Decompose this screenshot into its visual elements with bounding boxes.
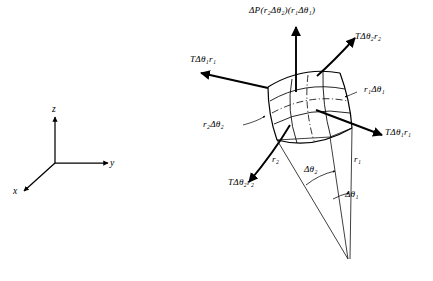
- label-radius-2: r₂: [272, 155, 279, 164]
- x-axis-line: [24, 163, 55, 191]
- label-pressure-force: ΔP(r₂Δθ₂)(r₁Δθ₁): [249, 6, 315, 15]
- radial-line-r2-outer: [277, 140, 348, 259]
- radial-lines-group: [277, 128, 352, 259]
- axis-label-x: x: [13, 186, 17, 196]
- patch-grid-line-long-2: [323, 71, 331, 138]
- patch-grid-line-trans-1: [270, 87, 345, 101]
- patch-centerline-transverse: [272, 99, 348, 113]
- tension-arrow-lower-left: [249, 125, 290, 182]
- tension-arrow-upper-left: [201, 73, 268, 88]
- label-tension-theta1-lower-right: TΔθ₁r₁: [385, 128, 411, 137]
- label-tension-theta2-lower-left: TΔθ₂r₂: [228, 178, 254, 187]
- axis-label-z: z: [52, 104, 56, 114]
- angle-arcs-group: [306, 171, 349, 199]
- membrane-patch-group: [268, 71, 352, 143]
- membrane-element-figure: ΔP(r₂Δθ₂)(r₁Δθ₁) TΔθ₂r₂ TΔθ₁r₁ TΔθ₁r₁ TΔ…: [0, 0, 433, 281]
- diagram-vector-graphics: [0, 0, 433, 281]
- tension-arrow-lower-right: [316, 110, 382, 135]
- label-arc-length-2: r₂Δθ₂: [203, 120, 224, 129]
- leader-line-r2-delta-theta-2: [243, 116, 265, 125]
- label-radius-1: r₁: [354, 155, 361, 164]
- patch-lower-connector: [277, 137, 330, 140]
- label-angle-1: Δθ₁: [345, 190, 359, 199]
- label-angle-2: Δθ₂: [304, 165, 318, 174]
- patch-edge-bottom: [277, 128, 352, 143]
- label-arc-length-1: r₁Δθ₁: [364, 85, 385, 94]
- patch-edge-left: [268, 87, 277, 140]
- coordinate-axes-group: [24, 117, 108, 191]
- patch-grid-line-trans-2: [274, 111, 350, 124]
- axis-label-y: y: [110, 158, 114, 168]
- patch-edge-top: [268, 71, 340, 87]
- label-tension-theta2-upper-right: TΔθ₂r₂: [355, 32, 381, 41]
- label-tension-theta1-upper-left: TΔθ₁r₁: [190, 55, 216, 64]
- tension-arrow-upper-right: [317, 38, 355, 76]
- patch-centerline-longitudinal: [307, 75, 314, 141]
